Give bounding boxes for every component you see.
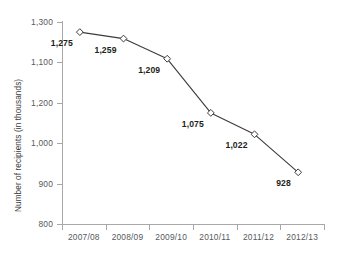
line-chart: Number of recipients (in thousands) 1,30… <box>0 0 342 260</box>
data-point-label: 1,075 <box>182 119 204 129</box>
data-point-label: 928 <box>276 178 291 188</box>
data-point-marker <box>120 35 127 42</box>
data-point-marker <box>76 29 83 36</box>
data-point-label: 1,022 <box>226 140 248 150</box>
data-point-label: 1,275 <box>51 38 73 48</box>
data-point-label: 1,209 <box>138 65 160 75</box>
data-point-label: 1,259 <box>95 45 117 55</box>
